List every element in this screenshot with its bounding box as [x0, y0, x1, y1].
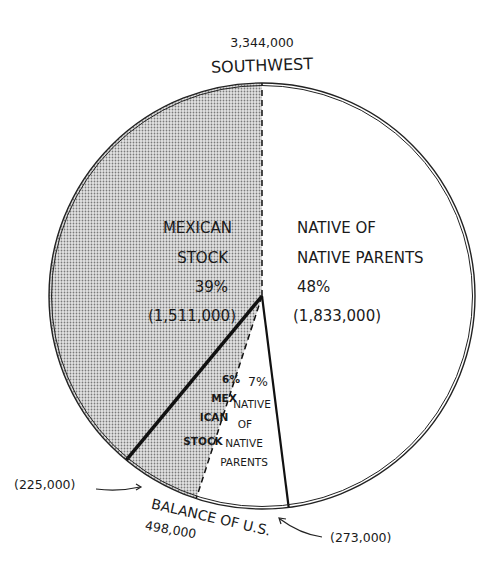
slice-label-line: PARENTS [220, 456, 268, 468]
pie-chart: 3,344,000 SOUTHWEST NATIVE OF NATIVE PAR… [0, 0, 498, 578]
slice-label-line: MEXICAN [163, 219, 232, 237]
callout-left-arrow [96, 487, 140, 490]
southwest-total-label: 3,344,000 [230, 35, 294, 50]
slice-label-value: (1,833,000) [293, 307, 381, 325]
southwest-group-label: SOUTHWEST [211, 54, 314, 77]
slice-label-percent: 48% [297, 278, 330, 296]
slice-label-percent: 7% [248, 374, 268, 389]
slice-label-line: NATIVE PARENTS [297, 249, 424, 267]
balance-total-label: 498,000 [144, 518, 198, 542]
slice-label-line: STOCK [177, 249, 229, 267]
callout-right-value: (273,000) [330, 530, 391, 545]
slice-label-value: (1,511,000) [148, 307, 236, 325]
slice-label-line: ICAN [200, 411, 229, 423]
slice-label-percent: 6% [222, 373, 240, 385]
callout-right-arrow [280, 519, 322, 537]
slice-label-line: OF [238, 418, 252, 430]
slice-label-line: STOCK [183, 435, 223, 447]
callout-left-value: (225,000) [14, 477, 75, 492]
slice-label-line: NATIVE OF [297, 219, 376, 237]
pie-slice-native-of-native-parents-southwest [262, 83, 475, 507]
slice-label-percent: 39% [195, 278, 228, 296]
slice-label-line: NATIVE [233, 398, 271, 410]
slice-label-line: NATIVE [225, 437, 263, 449]
